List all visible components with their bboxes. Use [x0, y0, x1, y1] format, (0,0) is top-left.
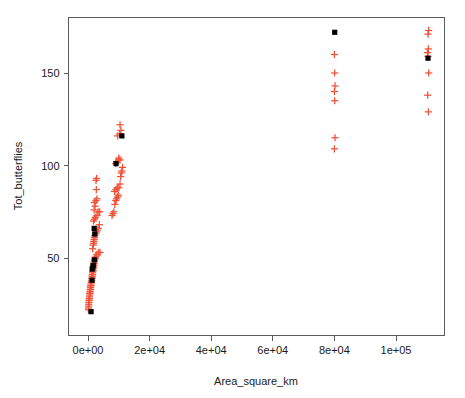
data-point-square — [88, 309, 93, 314]
x-tick-label: 0e+00 — [73, 344, 104, 356]
y-tick-label: 50 — [47, 252, 59, 264]
y-axis-title: Tot_butterflies — [12, 141, 24, 210]
x-tick-label: 6e+04 — [257, 344, 288, 356]
data-point-square — [89, 278, 94, 283]
data-point-square — [425, 56, 430, 61]
data-point-square — [92, 231, 97, 236]
data-point-square — [92, 226, 97, 231]
plot-background — [0, 0, 465, 398]
plot-canvas: 0e+002e+044e+046e+048e+041e+05 50100150 … — [0, 0, 465, 398]
data-point-square — [332, 30, 337, 35]
x-tick-label: 1e+05 — [381, 344, 412, 356]
x-tick-label: 8e+04 — [319, 344, 350, 356]
x-tick-label: 4e+04 — [196, 344, 227, 356]
data-point-square — [92, 257, 97, 262]
data-point-square — [91, 263, 96, 268]
data-point-square — [119, 133, 124, 138]
x-tick-label: 2e+04 — [134, 344, 165, 356]
scatter-plot-figure: 0e+002e+044e+046e+048e+041e+05 50100150 … — [0, 0, 465, 398]
y-tick-label: 150 — [41, 67, 59, 79]
x-axis-title: Area_square_km — [214, 375, 298, 387]
data-point-square — [113, 161, 118, 166]
y-tick-label: 100 — [41, 160, 59, 172]
